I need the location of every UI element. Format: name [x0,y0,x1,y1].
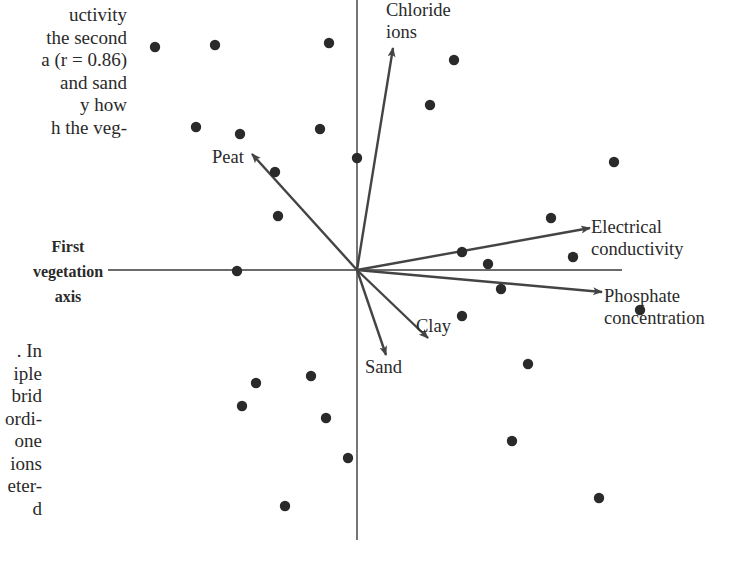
site-point [273,211,283,221]
peat-label: Peat [212,147,245,167]
site-point [507,436,517,446]
site-point [546,213,556,223]
phosphate-concentration-arrow [357,270,602,292]
site-point [191,122,201,132]
chloride-ions-arrow [357,48,393,270]
phosphate-concentration-label: Phosphateconcentration [604,286,705,328]
electrical-conductivity-label: Electricalconductivity [591,217,684,259]
electrical-conductivity-arrow [357,228,590,270]
site-point [251,378,261,388]
site-point [449,55,459,65]
site-point [280,501,290,511]
peat-arrow [252,154,357,270]
site-point [483,259,493,269]
site-point [343,453,353,463]
site-point [594,493,604,503]
site-point [568,252,578,262]
ordination-biplot: ChlorideionsPeatElectricalconductivityPh… [0,0,732,568]
site-point [210,40,220,50]
environmental-vectors [252,48,602,355]
site-point [324,38,334,48]
site-point [315,124,325,134]
site-point [496,284,506,294]
site-point [306,371,316,381]
vector-labels: ChlorideionsPeatElectricalconductivityPh… [212,0,705,377]
sand-label: Sand [365,357,403,377]
site-point [237,401,247,411]
site-point [352,153,362,163]
site-point [235,129,245,139]
site-point [609,157,619,167]
site-point [321,413,331,423]
site-point [457,247,467,257]
site-point [232,266,242,276]
clay-label: Clay [416,316,452,336]
site-point [457,311,467,321]
site-point [425,100,435,110]
site-point [150,42,160,52]
chloride-ions-label: Chlorideions [386,0,451,42]
site-point [523,359,533,369]
site-point [270,167,280,177]
